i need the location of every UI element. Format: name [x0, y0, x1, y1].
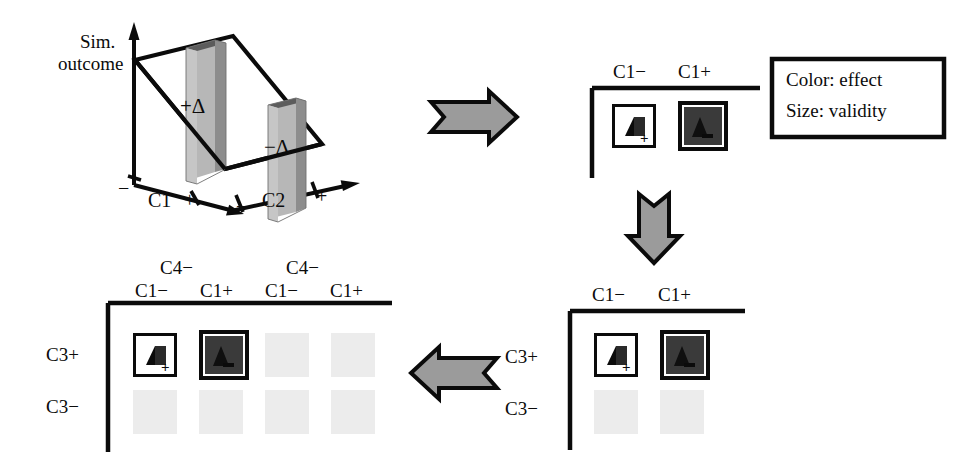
z-axis-tick-plus: + [316, 186, 327, 206]
cell-c3minus-c1minus[interactable] [594, 390, 638, 434]
cell-c3plus-c1plus-glyph [660, 330, 710, 380]
panel-bottom-left-super-header-1: C4− [286, 258, 319, 277]
y-axis-label-line1: Sim. [80, 32, 115, 51]
arrow-right-top [431, 91, 517, 143]
panel-bottom-left-row-header-1: C3− [46, 397, 79, 416]
cell-c4minus-a-c3minus-c1plus[interactable] [199, 390, 243, 434]
cell-c1-plus-glyph [678, 101, 728, 151]
svg-text:+: + [622, 359, 631, 375]
cell-c4minus-b-c3plus-c1plus[interactable] [331, 333, 375, 377]
cell-c1-minus-glyph: + [612, 104, 656, 148]
cell-c4minus-a-c3plus-c1minus-glyph: + [133, 333, 177, 377]
panel-top-right-col-header-0: C1− [613, 62, 646, 81]
panel-bottom-left-col-header-0: C1− [135, 281, 168, 300]
cell-c4minus-a-c3plus-c1plus-glyph [199, 330, 249, 380]
panel-bottom-left-col-header-1: C1+ [200, 281, 233, 300]
panel-bottom-left-super-header-0: C4− [160, 258, 193, 277]
x-axis-tick-minus: − [118, 178, 129, 198]
panel-bottom-right-col-header-0: C1− [592, 285, 625, 304]
cell-c4minus-b-c3plus-c1minus[interactable] [265, 333, 309, 377]
x-axis-tick-plus: + [184, 190, 195, 210]
bar-positive-delta-label: +Δ [180, 96, 205, 117]
x-axis-label: C1 [148, 190, 171, 210]
bar-negative-delta-label: −Δ [264, 137, 289, 158]
legend-line-color: Color: effect [786, 70, 882, 89]
panel-bottom-left-col-header-2: C1− [265, 281, 298, 300]
panel-bottom-right-row-header-1: C3− [505, 399, 538, 418]
arrow-down-right [628, 194, 680, 263]
cell-c4minus-b-c3minus-c1minus[interactable] [265, 390, 309, 434]
panel-bottom-right-col-header-1: C1+ [658, 285, 691, 304]
panel-bottom-left-row-header-0: C3+ [46, 345, 79, 364]
svg-text:+: + [640, 130, 649, 146]
arrow-left-bottom [411, 347, 497, 399]
panel-top-right-col-header-1: C1+ [678, 62, 711, 81]
figure-root: Sim. outcome − C1 + − C2 + +Δ −Δ Color: … [0, 0, 957, 471]
cell-c4minus-a-c3minus-c1minus[interactable] [133, 390, 177, 434]
legend-line-size: Size: validity [786, 101, 887, 120]
panel-bottom-right-row-header-0: C3+ [505, 347, 538, 366]
y-axis-label-line2: outcome [58, 54, 123, 73]
z-axis-tick-minus: − [236, 196, 247, 216]
panel-bottom-left-col-header-3: C1+ [330, 281, 363, 300]
svg-text:+: + [161, 359, 170, 375]
z-axis-label: C2 [262, 190, 285, 210]
cell-c3plus-c1minus-glyph: + [594, 333, 638, 377]
cell-c3minus-c1plus[interactable] [660, 390, 704, 434]
cell-c4minus-b-c3minus-c1plus[interactable] [331, 390, 375, 434]
